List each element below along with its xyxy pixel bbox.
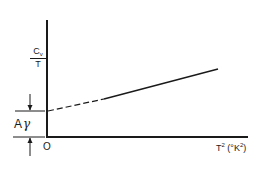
intercept-label: Aγ [14, 118, 31, 130]
dimension-arrow-up-icon [28, 138, 33, 157]
intercept-label-prefix: A [14, 117, 23, 131]
measured-line-segment [104, 69, 218, 99]
origin-label: O [43, 142, 51, 152]
y-axis-label-denominator: T [30, 59, 46, 69]
y-axis-label: Cv T [30, 47, 46, 69]
x-axis-label: T2 (°K2) [216, 142, 246, 153]
y-axis-label-numerator: Cv [30, 47, 46, 59]
intercept-label-gamma: γ [23, 117, 31, 131]
dimension-arrow-down-icon [28, 94, 33, 111]
extrapolated-line-segment [48, 99, 104, 111]
y-label-subscript: v [40, 51, 43, 57]
x-label-unit-close: ) [243, 143, 246, 153]
x-label-unit-open: (°K [225, 143, 240, 153]
